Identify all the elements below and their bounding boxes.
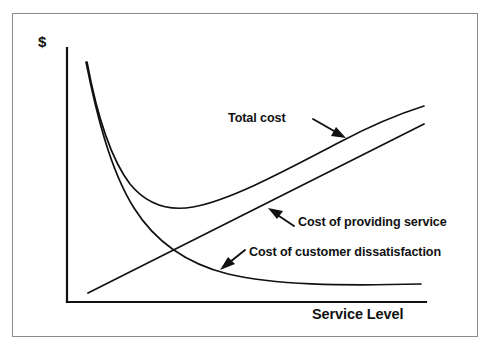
figure-root: $ Service Level Total cost Cost of provi… xyxy=(0,0,496,350)
series-total-cost xyxy=(87,62,424,208)
chart-canvas xyxy=(0,0,496,350)
annotation-label-cost-of-providing-service: Cost of providing service xyxy=(298,215,447,229)
series-cost-of-providing-service xyxy=(88,124,424,293)
x-axis-title: Service Level xyxy=(312,306,403,322)
annotation-label-cost-of-customer-dissatisfaction: Cost of customer dissatisfaction xyxy=(249,245,441,259)
y-axis-title: $ xyxy=(38,33,46,50)
total-cost-arrow-head xyxy=(331,127,346,138)
annotation-label-total-cost: Total cost xyxy=(228,111,286,125)
